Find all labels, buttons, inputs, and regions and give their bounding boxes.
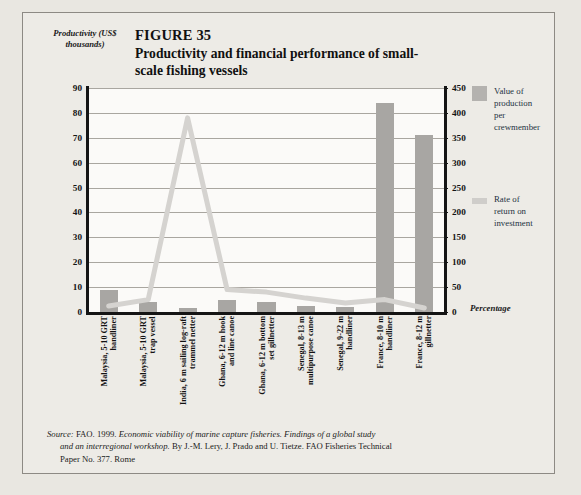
- x-axis-label: France, 8-10 m handliner: [376, 316, 394, 369]
- y2-tick-mark: [444, 312, 448, 313]
- figure-page: FIGURE 35 Productivity and financial per…: [0, 0, 581, 495]
- y2-tick-label: 0: [452, 307, 457, 317]
- y-tick-label: 10: [73, 282, 82, 292]
- source-label: Source:: [47, 429, 74, 439]
- legend-label: Value of production per crewmember: [494, 86, 540, 134]
- x-axis-label: Ghana, 6-12 m hook and line canoe: [218, 316, 236, 387]
- y-tick-label: 50: [73, 183, 82, 193]
- legend-label: Rate of return on investment: [494, 194, 533, 230]
- x-axis-label: Malaysia, 5-10 GRT handliner: [100, 316, 118, 386]
- y-tick-label: 70: [73, 133, 82, 143]
- y2-tick-mark: [444, 262, 448, 263]
- source-note: Source: FAO. 1999. Economic viability of…: [47, 428, 467, 465]
- page-title: Productivity and financial performance o…: [135, 46, 435, 79]
- y2-tick-mark: [444, 163, 448, 164]
- y-tick-label: 80: [73, 108, 82, 118]
- y-tick-label: 20: [73, 257, 82, 267]
- right-axis-line: [444, 86, 447, 314]
- y2-tick-label: 450: [452, 83, 466, 93]
- y2-tick-label: 100: [452, 257, 466, 267]
- y-tick-label: 90: [73, 83, 82, 93]
- x-axis-label: Ghana, 6-12 m bottom set gillnetter: [258, 316, 276, 395]
- source-text-1: FAO. 1999.: [74, 429, 119, 439]
- y-axis-title: Productivity (US$ thousands): [40, 28, 130, 51]
- y2-tick-label: 150: [452, 232, 466, 242]
- legend-item-rate-of-return: Rate of return on investment: [472, 194, 533, 230]
- source-text-3: Paper No. 377. Rome: [47, 453, 467, 465]
- y2-tick-mark: [444, 138, 448, 139]
- y-tick-label: 0: [77, 307, 82, 317]
- x-axis-label: Malaysia, 5-10 GRT trap vessel: [139, 316, 157, 386]
- chart-plot-area: 0102030405060708090 05010015020025030035…: [89, 88, 444, 312]
- y2-tick-label: 250: [452, 183, 466, 193]
- figure-number: FIGURE 35: [135, 27, 435, 44]
- y-tick-label: 40: [73, 207, 82, 217]
- x-axis-labels: Malaysia, 5-10 GRT handlinerMalaysia, 5-…: [89, 316, 444, 426]
- source-title-2: and an interregional workshop.: [60, 441, 170, 451]
- y2-tick-mark: [444, 237, 448, 238]
- figure-title-block: FIGURE 35 Productivity and financial per…: [135, 27, 435, 79]
- y-tick-label: 60: [73, 158, 82, 168]
- y2-tick-mark: [444, 287, 448, 288]
- y-tick-label: 30: [73, 232, 82, 242]
- y2-tick-label: 350: [452, 133, 466, 143]
- y2-tick-mark: [444, 88, 448, 89]
- y2-tick-mark: [444, 212, 448, 213]
- y2-tick-label: 300: [452, 158, 466, 168]
- x-axis-label: Senegal, 9-22 m handliner: [336, 316, 354, 371]
- legend-item-value-of-production: Value of production per crewmember: [472, 86, 540, 134]
- source-title-1: Economic viability of marine capture fis…: [119, 429, 376, 439]
- legend-line-swatch: [472, 198, 487, 204]
- line-series: [89, 88, 444, 312]
- y2-tick-mark: [444, 188, 448, 189]
- y2-tick-mark: [444, 113, 448, 114]
- legend-bar-swatch: [472, 86, 487, 101]
- x-axis-label: India, 6 m sailing log-raft trammel nett…: [179, 316, 197, 405]
- x-axis-label: Senegal, 8-13 m multipurpose canoe: [297, 316, 315, 385]
- x-axis-label: France, 8-12 m gillnetter: [415, 316, 433, 369]
- y2-tick-label: 50: [452, 282, 461, 292]
- y2-tick-label: 400: [452, 108, 466, 118]
- source-text-2: By J.-M. Lery, J. Prado and U. Tietze. F…: [170, 441, 392, 451]
- y2-tick-label: 200: [452, 207, 466, 217]
- y2-axis-title: Percentage: [470, 303, 511, 313]
- left-axis-line: [86, 86, 89, 314]
